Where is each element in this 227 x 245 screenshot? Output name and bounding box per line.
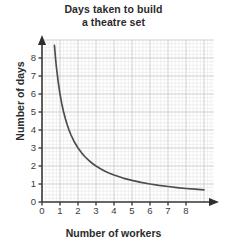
plot-background [42, 40, 214, 202]
plot-area [0, 0, 227, 245]
chart-container: Days taken to build a theatre set Number… [0, 0, 227, 245]
